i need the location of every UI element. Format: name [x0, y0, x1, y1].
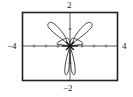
polar-plot	[0, 0, 133, 97]
